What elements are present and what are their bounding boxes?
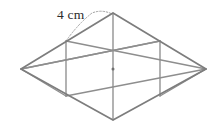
center-vertex-dot [112,68,115,71]
line-diagonal-lower-left-to-right [66,69,206,96]
inner-lines-group [21,13,206,120]
side-length-label: 4 cm [57,7,85,22]
geometry-figure: 4 cm [0,0,222,128]
rhombus-diagram-svg: 4 cm [0,0,222,128]
